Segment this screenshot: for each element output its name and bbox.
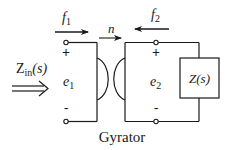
port2-minus-sign: - xyxy=(154,100,158,115)
gyrator-left-arc xyxy=(97,58,108,100)
flow-label-f1: f1 xyxy=(62,10,71,27)
port1-minus-sign: - xyxy=(64,100,68,115)
gyrator-symbol xyxy=(97,58,125,100)
load-impedance-label: Z(s) xyxy=(189,71,210,86)
gyrator-right-arc xyxy=(114,58,125,100)
effort-label-e1: e1 xyxy=(63,74,74,91)
input-impedance-label: Zin(s) xyxy=(16,61,47,78)
port1-plus-sign: + xyxy=(62,45,70,60)
gyrator-diagram: f1 n f2 Z(s) + e1 - + e2 - Zin(s) xyxy=(0,0,229,150)
port2-bottom-terminal xyxy=(154,119,158,123)
port2-plus-sign: + xyxy=(152,45,160,60)
effort-label-e2: e2 xyxy=(150,74,161,91)
input-double-arrow-icon xyxy=(12,81,48,96)
ratio-label-n: n xyxy=(108,21,115,36)
diagram-title: Gyrator xyxy=(99,129,146,145)
flow-label-f2: f2 xyxy=(151,7,160,24)
port1-bottom-terminal xyxy=(64,119,68,123)
